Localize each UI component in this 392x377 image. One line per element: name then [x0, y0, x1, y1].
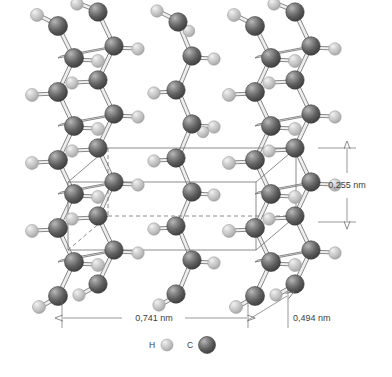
dim-height-label: 0,255 nm: [328, 180, 366, 190]
legend-hydrogen-swatch: [161, 339, 173, 351]
legend-carbon-symbol: C: [187, 340, 193, 350]
dim-width-label: 0,741 nm: [135, 313, 173, 323]
dim-depth-label: 0,494 nm: [293, 313, 331, 323]
legend-carbon-swatch: [199, 337, 216, 354]
legend-hydrogen-symbol: H: [149, 340, 155, 350]
structure-svg: 0,255 nm 0,741 nm 0,494 nm H C: [0, 0, 392, 377]
polyethylene-crystal-figure: 0,255 nm 0,741 nm 0,494 nm H C: [0, 0, 392, 377]
